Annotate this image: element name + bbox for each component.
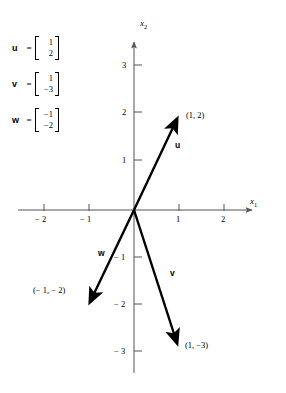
x-tick-label: − 2 bbox=[35, 214, 46, 224]
y-tick-label: 3 bbox=[122, 60, 126, 70]
x-tick-label: 2 bbox=[221, 214, 225, 224]
point-label-v: (1, −3) bbox=[185, 340, 208, 350]
y-axis-label: x2 bbox=[140, 18, 147, 30]
y-axis-label-subscript: 2 bbox=[144, 23, 147, 30]
point-label-u: (1, 2) bbox=[186, 110, 204, 120]
vector-arrow-w bbox=[90, 210, 134, 302]
x-tick-label: − 1 bbox=[80, 214, 91, 224]
y-tick-label: − 3 bbox=[114, 346, 125, 356]
x-axis-label: x1 bbox=[250, 196, 257, 208]
point-label-w: (− 1, − 2) bbox=[33, 285, 65, 295]
plot-vector-label-w: w bbox=[98, 248, 105, 258]
x-tick-label: 1 bbox=[176, 214, 180, 224]
plot-vector-label-u: u bbox=[175, 140, 180, 150]
plot-vector-label-v: v bbox=[170, 268, 175, 278]
y-tick-label: 1 bbox=[122, 155, 126, 165]
y-tick-label: − 1 bbox=[114, 252, 125, 262]
y-tick-label: − 2 bbox=[114, 299, 125, 309]
coordinate-plane bbox=[0, 0, 286, 393]
y-tick-label: 2 bbox=[122, 107, 126, 117]
vector-arrow-u bbox=[134, 119, 177, 210]
vector-plot-figure: u = 1 2 v = 1 −3 w = −1 −2 bbox=[0, 0, 286, 393]
x-axis-label-subscript: 1 bbox=[254, 201, 257, 208]
